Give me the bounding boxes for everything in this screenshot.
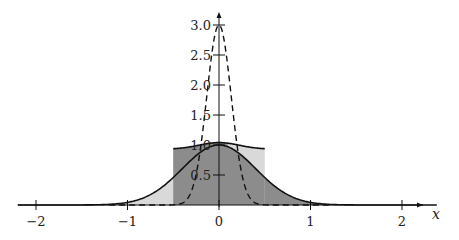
x-tick-label: 0 bbox=[215, 214, 223, 229]
area-fills bbox=[18, 143, 439, 205]
y-tick-label: 3.0 bbox=[190, 18, 211, 33]
x-tick-label: −1 bbox=[118, 214, 137, 229]
y-axis-arrow-icon bbox=[217, 12, 222, 18]
y-tick-label: 2.0 bbox=[190, 78, 211, 93]
x-tick-label: −2 bbox=[26, 214, 45, 229]
chart-canvas: x −2−10120.51.01.52.02.53.0 bbox=[0, 0, 459, 240]
y-tick-label: 1.5 bbox=[190, 108, 211, 123]
y-tick-label: 1.0 bbox=[190, 138, 211, 153]
y-tick-label: 2.5 bbox=[190, 48, 211, 63]
x-tick-label: 1 bbox=[306, 214, 314, 229]
y-tick-label: 0.5 bbox=[190, 168, 211, 183]
x-axis-arrow-icon bbox=[417, 203, 423, 208]
x-axis-label: x bbox=[432, 206, 440, 222]
x-tick-label: 2 bbox=[398, 214, 406, 229]
right-dark-fill bbox=[265, 178, 439, 205]
